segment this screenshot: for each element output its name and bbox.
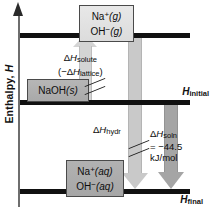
y-axis-title: Enthalpy, H: [3, 54, 15, 134]
h-final-subscript: final: [188, 197, 203, 206]
annotation-line-solute: ΔHsolute: [58, 52, 103, 66]
annotation-delta-h-solute: ΔHsolute (−ΔHlattice): [58, 52, 103, 80]
species-state: (g): [109, 11, 121, 22]
species-line-sodium-gas: Na+(g): [86, 8, 127, 23]
subscript-hydr: hydr: [106, 127, 121, 136]
enthalpy-diagram: Enthalpy, H Hinitial Hfinal Na+(g) OH−(g…: [0, 0, 212, 211]
species-line-hydroxide-gas: OH−(g): [86, 23, 127, 38]
species-state: (g): [110, 26, 122, 37]
y-axis-title-symbol: H: [3, 64, 15, 72]
species-formula: NaOH: [38, 85, 66, 96]
enthalpy-symbol: H: [73, 66, 80, 77]
enthalpy-symbol: H: [70, 52, 77, 63]
annotation-delta-h-hydration: ΔHhydr: [93, 124, 121, 138]
species-formula: Na: [92, 11, 105, 22]
species-formula: Na: [77, 166, 90, 177]
subscript-lattice: lattice: [80, 69, 100, 78]
species-state: (aq): [95, 166, 113, 177]
arrow-head-down-icon: [158, 172, 184, 189]
closing-paren: ): [100, 66, 103, 77]
species-line-hydroxide-aqueous: OH−(aq): [73, 178, 117, 193]
species-state: (aq): [96, 181, 114, 192]
break-slashes-solution: [128, 142, 158, 158]
y-axis-arrow-icon: [13, 2, 23, 16]
slash-line: [85, 86, 106, 95]
annotation-line-soln-symbol: ΔHsoln: [150, 128, 182, 141]
species-formula: OH: [76, 181, 91, 192]
species-box-gaseous-ions: Na+(g) OH−(g): [79, 5, 134, 42]
y-axis-line: [18, 14, 20, 207]
species-box-sodium-hydroxide-solid: NaOH(s): [27, 79, 89, 102]
label-h-final: Hfinal: [180, 194, 203, 206]
subscript-soln: soln: [163, 131, 177, 140]
h-final-symbol: H: [180, 194, 187, 205]
species-line-naoh-solid: NaOH(s): [34, 84, 82, 97]
subscript-solute: solute: [77, 55, 97, 64]
species-box-aqueous-ions: Na+(aq) OH−(aq): [66, 160, 124, 197]
y-axis-title-text: Enthalpy,: [3, 75, 15, 123]
arrow-head-down-icon: [122, 173, 148, 189]
slash-line: [129, 148, 150, 157]
species-line-sodium-aqueous: Na+(aq): [73, 163, 117, 178]
break-slashes-solute: [84, 80, 114, 96]
arrow-delta-h-hydration: [122, 34, 148, 189]
label-h-initial: Hinitial: [182, 86, 209, 98]
negative-delta-symbol: (−Δ: [58, 66, 73, 77]
species-state: (s): [66, 85, 78, 96]
annotation-line-lattice: (−ΔHlattice): [58, 66, 103, 80]
species-formula: OH: [91, 26, 106, 37]
h-initial-subscript: initial: [189, 89, 209, 98]
